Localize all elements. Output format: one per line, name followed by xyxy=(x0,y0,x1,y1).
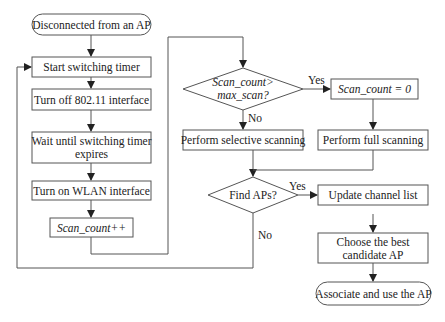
node-wait-label-line2: expires xyxy=(75,148,109,161)
node-turn-off: Turn off 802.11 interface xyxy=(32,89,151,110)
node-wait: Wait until switching timer expires xyxy=(31,132,151,163)
node-selective: Perform selective scanning xyxy=(181,130,306,150)
label-scan-no: No xyxy=(248,112,262,124)
label-scan-yes: Yes xyxy=(308,74,325,86)
node-turn-off-label: Turn off 802.11 interface xyxy=(34,94,149,106)
node-decision-find-label: Find APs? xyxy=(229,189,277,201)
node-decision-scan-line2: max_scan? xyxy=(217,89,269,101)
node-choose-label-line1: Choose the best xyxy=(337,236,411,248)
node-update-label: Update channel list xyxy=(329,189,419,202)
node-reset-label: Scan_count = 0 xyxy=(338,83,411,95)
edge-full-to-find xyxy=(253,150,373,170)
node-scan-inc-label: Scan_count++ xyxy=(57,222,126,234)
node-start: Disconnected from an AP xyxy=(32,14,151,35)
node-full: Perform full scanning xyxy=(318,130,428,150)
node-decision-scan: Scan_count> max_scan? xyxy=(183,68,303,110)
node-choose-label-line2: candidate AP xyxy=(343,249,404,261)
node-wait-label-line1: Wait until switching timer xyxy=(31,135,151,148)
node-update: Update channel list xyxy=(318,185,428,205)
label-find-yes: Yes xyxy=(289,180,306,192)
flowchart: Yes No Yes No Disconnected from an AP St… xyxy=(0,0,445,322)
node-selective-label: Perform selective scanning xyxy=(181,134,306,147)
node-scan-inc: Scan_count++ xyxy=(50,218,133,237)
label-find-no: No xyxy=(258,229,272,241)
node-start-label: Disconnected from an AP xyxy=(32,19,151,31)
node-start-timer-label: Start switching timer xyxy=(43,61,140,74)
node-full-label: Perform full scanning xyxy=(323,134,424,147)
node-turn-on-label: Turn on WLAN interface xyxy=(33,185,150,197)
node-reset: Scan_count = 0 xyxy=(331,79,418,99)
node-choose: Choose the best candidate AP xyxy=(318,233,428,263)
node-decision-scan-line1: Scan_count> xyxy=(212,76,273,88)
node-start-timer: Start switching timer xyxy=(32,57,151,77)
node-end-label: Associate and use the AP xyxy=(315,288,431,300)
node-end: Associate and use the AP xyxy=(315,282,431,305)
node-turn-on: Turn on WLAN interface xyxy=(32,181,151,200)
node-decision-find: Find APs? xyxy=(208,177,298,213)
